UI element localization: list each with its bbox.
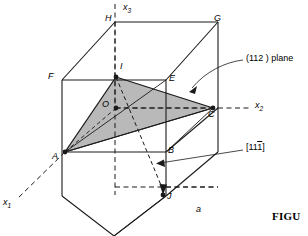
vertex-label-F: F	[48, 72, 54, 81]
vertex-label-C: C	[208, 110, 215, 119]
vertex-label-H: H	[105, 14, 112, 23]
annotation-112-plane: (112 ) plane	[246, 54, 293, 63]
vertex-dot-A	[63, 150, 68, 155]
figure-caption: FIGU	[272, 210, 300, 222]
edge-length-marker	[114, 196, 166, 236]
vertex-label-O: O	[102, 100, 109, 109]
annotation-111bar-direction: [111]	[246, 143, 265, 152]
leader-arrowhead-direction	[156, 160, 165, 168]
axis-label-x2: x2	[255, 101, 263, 112]
vertex-dot-I	[114, 75, 119, 80]
vertex-label-I: I	[120, 62, 123, 71]
vertex-dot-O	[114, 106, 119, 111]
vertex-label-J: J	[167, 192, 172, 201]
crystallography-figure: H G F E I O C A B J a x3 x2 x1 (112 ) pl…	[0, 0, 308, 236]
vertex-label-G: G	[214, 14, 221, 23]
vertex-label-B: B	[168, 146, 174, 155]
unit-cell-drawing	[0, 0, 308, 236]
vertex-label-A: A	[52, 152, 58, 161]
vertex-label-E: E	[169, 74, 175, 83]
edge-length-label-a: a	[196, 205, 201, 214]
axis-label-x3: x3	[123, 3, 131, 14]
axis-label-x1: x1	[3, 198, 11, 209]
